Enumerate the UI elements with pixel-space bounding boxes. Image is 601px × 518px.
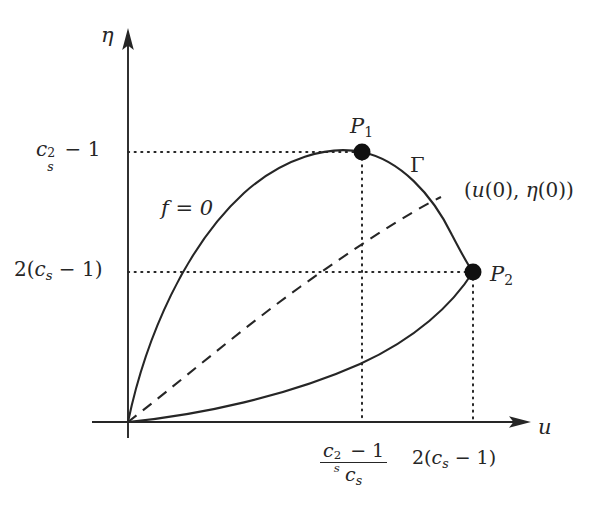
point-P2-base: P	[490, 262, 504, 286]
x-axis-tick-label-fraction: c2s − 1cs	[320, 440, 387, 488]
y2cs-rest: − 1)	[53, 257, 103, 281]
u-function-arg: (0)	[485, 178, 513, 202]
point-P1-base: P	[350, 114, 364, 138]
y2cs-prefix: 2(	[14, 257, 35, 281]
curve-trajectory-dashed	[128, 197, 441, 422]
point-P1-marker	[354, 144, 371, 161]
curve-lower-branch	[128, 272, 473, 422]
u-axis-label: u	[538, 417, 552, 438]
point-label-P1: P1	[350, 116, 373, 140]
frac-num-rest: − 1	[344, 439, 384, 461]
y2cs-subscript: s	[46, 268, 53, 283]
initial-point-label: (u(0), η(0))	[464, 180, 574, 200]
u-function-name: u	[472, 178, 485, 202]
curve-label-f-equals-zero: f = 0	[161, 198, 213, 219]
eta-function-arg: (0)	[538, 178, 566, 202]
frac-num-superscript: 2	[334, 449, 342, 462]
curve-label-gamma: Γ	[410, 155, 425, 176]
x2cs-base: c	[432, 446, 443, 468]
y2cs-base: c	[35, 257, 46, 281]
x2cs-prefix: 2(	[412, 446, 432, 468]
frac-num-subscript: s	[334, 462, 340, 475]
frac-den-subscript: s	[356, 473, 362, 488]
y-axis-tick-label-2cs-minus-1: 2(cs − 1)	[14, 259, 103, 282]
x2cs-rest: − 1)	[449, 446, 497, 468]
point-P2-marker	[465, 264, 482, 281]
paren-open: (	[464, 178, 472, 202]
frac-den-base: c	[345, 463, 356, 485]
point-label-P2: P2	[490, 264, 513, 288]
paren-close: )	[566, 178, 574, 202]
frac-num-base: c	[323, 439, 334, 461]
eta-axis-label: η	[101, 25, 114, 46]
cs2-superscript: 2	[47, 147, 55, 159]
cs2-rest: − 1	[58, 137, 100, 161]
cs2-subscript: s	[47, 161, 53, 173]
y-axis-tick-label-cs2-minus-1: c2s − 1	[36, 139, 100, 159]
fraction-group: c2s − 1cs	[320, 440, 387, 488]
point-P2-subscript: 2	[504, 272, 513, 288]
fraction-denominator: cs	[320, 463, 387, 488]
eta-function-name: η	[526, 178, 538, 202]
x-axis-tick-label-2cs-minus-1: 2(cs − 1)	[412, 448, 496, 470]
point-P1-subscript: 1	[364, 124, 373, 140]
fraction-numerator: c2s − 1	[320, 440, 387, 463]
cs2-base: c	[36, 137, 47, 161]
comma-separator: ,	[513, 178, 526, 202]
